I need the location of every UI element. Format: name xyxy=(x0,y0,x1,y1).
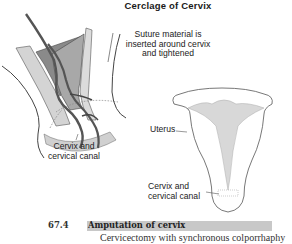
cervix-label-line: cervical canal xyxy=(148,192,200,202)
section-number: 67.4 xyxy=(48,220,69,230)
uterus-label: Uterus xyxy=(150,124,175,134)
cervix-label-right: Cervix and cervical canal xyxy=(148,182,200,202)
section-subtitle: Cervicectomy with synchronous colporrhap… xyxy=(100,232,285,243)
suture-label-line: and tightened xyxy=(112,49,224,59)
cervix-label-line: cervical canal xyxy=(36,152,112,162)
cervix-cross-section-drawing xyxy=(2,14,126,158)
cervix-label-left: Cervix and cervical canal xyxy=(36,142,112,162)
figure-title: Cerclage of Cervix xyxy=(113,0,223,11)
suture-label: Suture material is inserted around cervi… xyxy=(112,30,224,59)
section-title: Amputation of cervix xyxy=(88,220,185,230)
